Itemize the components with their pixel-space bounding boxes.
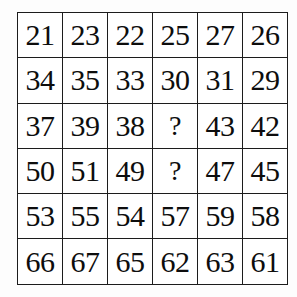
grid-body: 21 23 22 25 27 26 34 35 33 30 31 29 37 <box>18 13 288 285</box>
grid-cell[interactable]: 39 <box>63 103 108 148</box>
grid-cell[interactable]: 55 <box>63 194 108 239</box>
grid-cell[interactable]: 35 <box>63 58 108 103</box>
grid-cell[interactable]: 22 <box>108 13 153 58</box>
grid-cell[interactable]: 50 <box>18 148 63 193</box>
grid-cell-unknown[interactable]: ? <box>153 103 198 148</box>
table-row: 66 67 65 62 63 61 <box>18 239 288 284</box>
grid-cell[interactable]: 59 <box>198 194 243 239</box>
grid-cell[interactable]: 61 <box>243 239 288 284</box>
grid-cell[interactable]: 58 <box>243 194 288 239</box>
grid-cell[interactable]: 57 <box>153 194 198 239</box>
table-row: 50 51 49 ? 47 45 <box>18 148 288 193</box>
grid-cell[interactable]: 25 <box>153 13 198 58</box>
grid-cell[interactable]: 63 <box>198 239 243 284</box>
table-row: 21 23 22 25 27 26 <box>18 13 288 58</box>
table-row: 34 35 33 30 31 29 <box>18 58 288 103</box>
grid-cell[interactable]: 67 <box>63 239 108 284</box>
grid-cell[interactable]: 30 <box>153 58 198 103</box>
number-grid-puzzle: 21 23 22 25 27 26 34 35 33 30 31 29 37 <box>0 0 297 297</box>
grid-cell[interactable]: 29 <box>243 58 288 103</box>
grid-cell[interactable]: 34 <box>18 58 63 103</box>
grid-cell[interactable]: 51 <box>63 148 108 193</box>
grid-cell[interactable]: 33 <box>108 58 153 103</box>
grid-cell[interactable]: 66 <box>18 239 63 284</box>
grid-cell[interactable]: 42 <box>243 103 288 148</box>
grid-cell[interactable]: 54 <box>108 194 153 239</box>
grid-cell[interactable]: 62 <box>153 239 198 284</box>
grid-container: 21 23 22 25 27 26 34 35 33 30 31 29 37 <box>17 12 281 278</box>
grid-cell[interactable]: 53 <box>18 194 63 239</box>
grid-cell[interactable]: 65 <box>108 239 153 284</box>
grid-cell[interactable]: 26 <box>243 13 288 58</box>
grid-cell[interactable]: 37 <box>18 103 63 148</box>
table-row: 37 39 38 ? 43 42 <box>18 103 288 148</box>
grid-cell[interactable]: 43 <box>198 103 243 148</box>
grid-cell[interactable]: 23 <box>63 13 108 58</box>
grid-cell[interactable]: 49 <box>108 148 153 193</box>
number-grid-table: 21 23 22 25 27 26 34 35 33 30 31 29 37 <box>17 12 288 285</box>
grid-cell[interactable]: 47 <box>198 148 243 193</box>
grid-cell[interactable]: 27 <box>198 13 243 58</box>
grid-cell[interactable]: 38 <box>108 103 153 148</box>
grid-cell[interactable]: 31 <box>198 58 243 103</box>
grid-cell-unknown[interactable]: ? <box>153 148 198 193</box>
grid-cell[interactable]: 21 <box>18 13 63 58</box>
table-row: 53 55 54 57 59 58 <box>18 194 288 239</box>
grid-cell[interactable]: 45 <box>243 148 288 193</box>
